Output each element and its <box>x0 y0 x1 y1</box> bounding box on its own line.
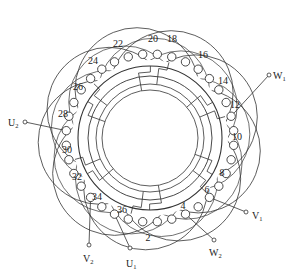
terminal-label-V2: V2 <box>83 253 93 265</box>
slot-label: 10 <box>232 131 242 142</box>
slot-11-marker <box>229 141 237 149</box>
slot-label: 4 <box>181 200 186 211</box>
lead-W1 <box>231 75 269 116</box>
slot-6-marker <box>194 203 202 211</box>
terminal-label-V1: V1 <box>252 210 262 222</box>
lead-V2 <box>89 197 91 245</box>
slot-29-marker <box>62 126 70 134</box>
slot-label: 14 <box>218 75 228 86</box>
slot-label: 26 <box>73 81 83 92</box>
slot-8-marker <box>215 182 223 190</box>
slot-16-marker <box>205 74 213 82</box>
slot-label: 20 <box>148 33 158 44</box>
slot-24-marker <box>98 65 106 73</box>
terminal-V2-icon[interactable] <box>87 243 91 247</box>
slot-20-marker <box>153 50 161 58</box>
slot-25-marker <box>86 74 94 82</box>
slot-label: 24 <box>88 55 98 66</box>
terminal-U1-icon[interactable] <box>128 246 132 250</box>
slot-label: 18 <box>167 33 177 44</box>
slot-label: 36 <box>117 204 127 215</box>
bore-ring <box>102 90 198 186</box>
slot-5-marker <box>181 210 189 218</box>
slot-18-marker <box>181 58 189 66</box>
slot-31-marker <box>65 156 73 164</box>
terminal-V1-icon[interactable] <box>244 210 248 214</box>
slot-label: 12 <box>230 99 240 110</box>
slot-10-marker <box>227 156 235 164</box>
slot-label: 34 <box>92 191 102 202</box>
terminal-label-W2: W2 <box>209 247 222 259</box>
slot-3-marker <box>153 217 161 225</box>
slot-15-marker <box>215 86 223 94</box>
slot-35-marker <box>98 203 106 211</box>
slot-27-marker <box>70 98 78 106</box>
slot-label: 2 <box>146 232 151 243</box>
slot-13-marker <box>227 112 235 120</box>
slot-label: 6 <box>205 184 210 195</box>
slot-label: 8 <box>220 167 225 178</box>
terminal-label-W1: W1 <box>273 70 286 82</box>
slot-22-marker <box>124 53 132 61</box>
slot-label: 32 <box>72 171 82 182</box>
slot-21-marker <box>138 50 146 58</box>
slot-33-marker <box>77 182 85 190</box>
slot-label: 30 <box>62 144 72 155</box>
lead-V1 <box>209 197 246 212</box>
slot-23-marker <box>110 58 118 66</box>
slot-2-marker <box>138 217 146 225</box>
terminal-label-U1: U1 <box>126 258 136 270</box>
slot-1-marker <box>124 215 132 223</box>
slot-label: 28 <box>58 108 68 119</box>
slot-19-marker <box>168 53 176 61</box>
slot-label: 16 <box>198 49 208 60</box>
winding-diagram-canvas: 24681012141618202224262830323436 U1U2V1V… <box>0 0 297 273</box>
winding-diagram: 24681012141618202224262830323436 U1U2V1V… <box>0 0 297 273</box>
terminal-W1-icon[interactable] <box>267 73 271 77</box>
terminal-label-U2: U2 <box>8 117 18 129</box>
terminal-U2-icon[interactable] <box>23 120 27 124</box>
slot-17-marker <box>194 65 202 73</box>
slot-4-marker <box>168 215 176 223</box>
lead-U2 <box>25 122 66 131</box>
terminal-W2-icon[interactable] <box>212 238 216 242</box>
slot-label: 22 <box>113 38 123 49</box>
